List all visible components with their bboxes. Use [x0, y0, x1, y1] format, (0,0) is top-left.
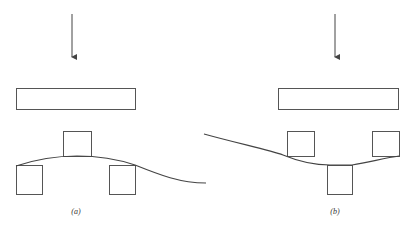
panel-b-label: (b)	[330, 207, 339, 216]
beam	[17, 89, 136, 110]
top-right-block	[373, 132, 400, 157]
beam	[279, 89, 399, 110]
deflection-diagram	[0, 0, 412, 231]
bottom-left-block	[17, 166, 43, 195]
deflected-curve	[204, 134, 399, 165]
bottom-right-block	[110, 166, 136, 195]
top-left-block	[288, 132, 315, 157]
top-center-block	[64, 132, 92, 157]
panel-b	[204, 14, 400, 195]
panel-a	[16, 14, 206, 195]
deflected-curve	[16, 156, 206, 183]
bottom-center-block	[328, 166, 353, 195]
panel-a-label: (a)	[71, 207, 80, 216]
